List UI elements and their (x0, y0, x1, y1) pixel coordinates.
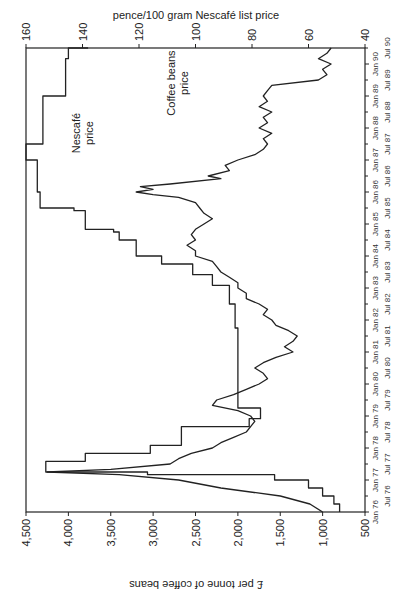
left-tick-label: 1,000 (317, 519, 329, 547)
date-label-jul: Jul 85 (383, 197, 392, 219)
date-label-jan: Jan 78 (371, 435, 380, 460)
right-tick-label: 60 (303, 29, 315, 41)
date-label-jan: Jan 79 (371, 403, 380, 428)
right-tick-label: 100 (190, 23, 202, 41)
date-label-jul: Jul 88 (383, 101, 392, 123)
date-label-jul: Jul 87 (383, 133, 392, 155)
nescafe-annotation: Nescaféprice (70, 113, 95, 153)
left-tick-label: 1,500 (274, 519, 286, 547)
nescafe-annotation-line: Nescafé (70, 113, 82, 153)
right-tick-label: 160 (20, 23, 32, 41)
date-label-jan: Jan 81 (371, 339, 380, 364)
right-tick-label: 80 (246, 29, 258, 41)
date-label-jan: Jan 87 (371, 147, 380, 172)
coffee-beans-annotation-line: price (178, 71, 190, 95)
right-axis-title: pence/100 gram Nescafé list price (113, 9, 279, 21)
left-tick-label: 500 (359, 519, 371, 537)
date-label-jan: Jan 86 (371, 179, 380, 204)
nescafe-annotation-line: price (83, 121, 95, 145)
left-tick-label: 2,000 (232, 519, 244, 547)
date-label-jan: Jan 82 (371, 307, 380, 332)
date-label-jan: Jan 80 (371, 371, 380, 396)
axes: 5001,0001,5002,0002,5003,0003,5004,0004,… (20, 23, 392, 547)
coffee-beans-price-line (47, 48, 331, 512)
date-label-jul: Jul 86 (383, 165, 392, 187)
date-label-jan: Jan 76 (371, 499, 380, 524)
date-label-jul: Jul 84 (383, 229, 392, 251)
left-tick-label: 3,500 (105, 519, 117, 547)
date-label-jul: Jul 81 (383, 325, 392, 347)
date-label-jul: Jul 89 (383, 69, 392, 91)
date-label-jan: Jan 88 (371, 115, 380, 140)
date-label-jul: Jul 82 (383, 293, 392, 315)
left-axis-title: £ per tonne of coffee beans (129, 579, 263, 591)
right-tick-label: 140 (77, 23, 89, 41)
coffee-beans-annotation: Coffee beansprice (165, 50, 190, 116)
date-label-jul: Jul 78 (383, 421, 392, 443)
date-label-jan: Jan 83 (371, 275, 380, 300)
date-label-jul: Jul 77 (383, 453, 392, 475)
left-tick-label: 2,500 (190, 519, 202, 547)
coffee-price-chart: 5001,0001,5002,0002,5003,0003,5004,0004,… (0, 0, 414, 603)
right-tick-label: 120 (133, 23, 145, 41)
left-tick-label: 4,000 (62, 519, 74, 547)
chart-container: 5001,0001,5002,0002,5003,0003,5004,0004,… (0, 0, 414, 603)
date-label-jul: Jul 80 (383, 357, 392, 379)
date-label-jul: Jul 76 (383, 485, 392, 507)
date-label-jan: Jan 77 (371, 467, 380, 492)
right-tick-label: 40 (359, 29, 371, 41)
coffee-beans-annotation-line: Coffee beans (165, 50, 177, 116)
date-label-jul: Jul 83 (383, 261, 392, 283)
date-label-jul: Jul 90 (383, 37, 392, 59)
date-label-jan: Jan 84 (371, 243, 380, 268)
left-tick-label: 4,500 (20, 519, 32, 547)
left-tick-label: 3,000 (147, 519, 159, 547)
date-label-jan: Jan 85 (371, 211, 380, 236)
date-label-jan: Jan 89 (371, 83, 380, 108)
date-label-jul: Jul 79 (383, 389, 392, 411)
date-label-jan: Jan 90 (371, 51, 380, 76)
